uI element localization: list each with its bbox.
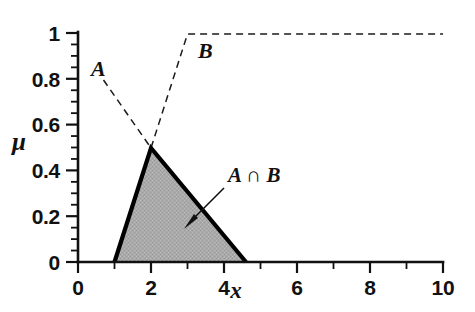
x-axis-title: x	[230, 278, 242, 304]
y-tick-label-0-2: 0.2	[10, 205, 60, 229]
series-label-intersection: A ∩ B	[228, 163, 280, 188]
x-tick-label-2: 2	[131, 276, 171, 300]
y-axis-title: μ	[12, 128, 26, 156]
y-tick-label-0: 0	[30, 251, 60, 275]
x-tick-label-8: 8	[350, 276, 390, 300]
x-tick-label-0: 0	[58, 276, 98, 300]
series-label-a: A	[91, 56, 106, 82]
y-tick-label-0-8: 0.8	[10, 68, 60, 92]
y-tick-label-1: 1	[30, 22, 60, 46]
x-tick-label-10: 10	[418, 276, 468, 300]
series-label-b: B	[198, 38, 213, 64]
figure-canvas: 0 0.2 0.4 0.6 0.8 1 0 2 4 6 8 10 x μ A B…	[0, 0, 475, 312]
plot-svg	[0, 0, 475, 312]
y-tick-label-0-4: 0.4	[10, 159, 60, 183]
x-tick-label-6: 6	[277, 276, 317, 300]
